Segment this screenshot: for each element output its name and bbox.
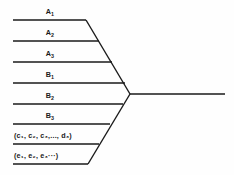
subscript-a3: 3 [51, 53, 54, 59]
branch-label-e-group: (e₁, e₂, e₃···) [14, 152, 58, 159]
subscript-a1: 1 [51, 11, 54, 17]
branch-label-a1: A1 [46, 8, 55, 15]
branch-label-c-group: (c₁, c₂, c₃,..., d₃) [14, 132, 72, 139]
branch-label-a3: A3 [46, 50, 55, 57]
subscript-b2: 2 [51, 95, 54, 101]
branch-label-b1: B1 [46, 71, 55, 78]
branch-label-b3: B3 [46, 112, 55, 119]
subscript-b3: 3 [51, 115, 54, 121]
branch-label-a2: A2 [46, 29, 55, 36]
branch-line-group [13, 20, 125, 164]
fishbone-diagram: A1A2A3B1B2B3(c₁, c₂, c₃,..., d₃)(e₁, e₂,… [0, 0, 234, 175]
subscript-a2: 2 [51, 32, 54, 38]
branch-label-b2: B2 [46, 92, 55, 99]
diagram-canvas [0, 0, 234, 175]
subscript-b1: 1 [51, 74, 54, 80]
